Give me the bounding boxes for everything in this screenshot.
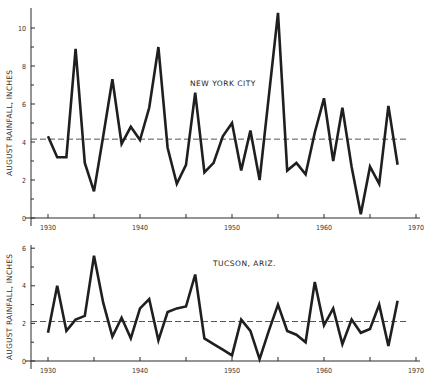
x-tick-label: 1960 <box>316 367 332 375</box>
y-tick-label: 6 <box>22 245 26 253</box>
y-tick-label: 2 <box>22 320 26 328</box>
new-york-title: NEW YORK CITY <box>190 79 256 88</box>
y-tick-label: 4 <box>22 282 26 290</box>
y-tick-label: 10 <box>18 25 26 33</box>
x-tick-label: 1930 <box>40 224 56 232</box>
y-tick-label: 6 <box>22 101 26 109</box>
x-tick-label: 1930 <box>40 367 56 375</box>
x-tick-label: 1940 <box>132 224 148 232</box>
x-tick-label: 1940 <box>132 367 148 375</box>
y-tick-label: 0 <box>22 358 26 366</box>
new-york-chart: 024681019301940195019601970 NEW YORK CIT… <box>5 8 424 232</box>
y-tick-label: 8 <box>22 63 26 71</box>
x-tick-label: 1970 <box>408 367 424 375</box>
x-tick-label: 1960 <box>316 224 332 232</box>
tucson-chart: 024619301940195019601970 TUCSON, ARIZ. A… <box>5 245 424 375</box>
x-tick-label: 1970 <box>408 224 424 232</box>
y-tick-label: 0 <box>22 215 26 223</box>
rainfall-line <box>48 256 398 359</box>
y-tick-label: 2 <box>22 177 26 185</box>
x-tick-label: 1950 <box>224 367 240 375</box>
rainfall-figure: 024681019301940195019601970 NEW YORK CIT… <box>0 0 429 384</box>
y-tick-label: 4 <box>22 139 26 147</box>
new-york-series <box>48 13 398 214</box>
rainfall-line <box>48 13 398 214</box>
tucson-y-axis-label: AUGUST RAINFALL, INCHES <box>5 254 14 360</box>
new-york-y-axis-label: AUGUST RAINFALL, INCHES <box>5 70 14 176</box>
x-tick-label: 1950 <box>224 224 240 232</box>
tucson-title: TUCSON, ARIZ. <box>212 259 276 268</box>
tucson-series <box>48 256 398 359</box>
